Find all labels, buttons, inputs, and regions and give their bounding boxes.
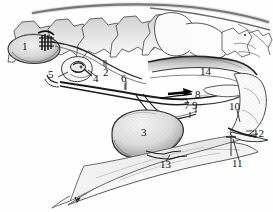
label-3: 3 bbox=[141, 127, 147, 138]
junction-arrow-8 bbox=[160, 88, 193, 98]
label-7: 7 bbox=[184, 100, 190, 111]
label-10: 10 bbox=[229, 101, 240, 112]
label-2: 2 bbox=[103, 67, 109, 78]
label-1: 1 bbox=[22, 41, 28, 52]
label-14: 14 bbox=[200, 66, 211, 77]
label-4: 4 bbox=[93, 73, 99, 84]
small-oval-gland bbox=[62, 57, 93, 82]
label-5: 5 bbox=[48, 69, 54, 80]
label-6: 6 bbox=[121, 73, 127, 84]
label-13: 13 bbox=[160, 159, 171, 170]
label-9: 9 bbox=[192, 100, 198, 111]
label-12: 12 bbox=[253, 128, 264, 139]
label-11: 11 bbox=[232, 158, 243, 169]
anatomical-figure: 1 2 3 4 5 6 7 8 9 10 11 12 13 14 bbox=[0, 0, 273, 212]
